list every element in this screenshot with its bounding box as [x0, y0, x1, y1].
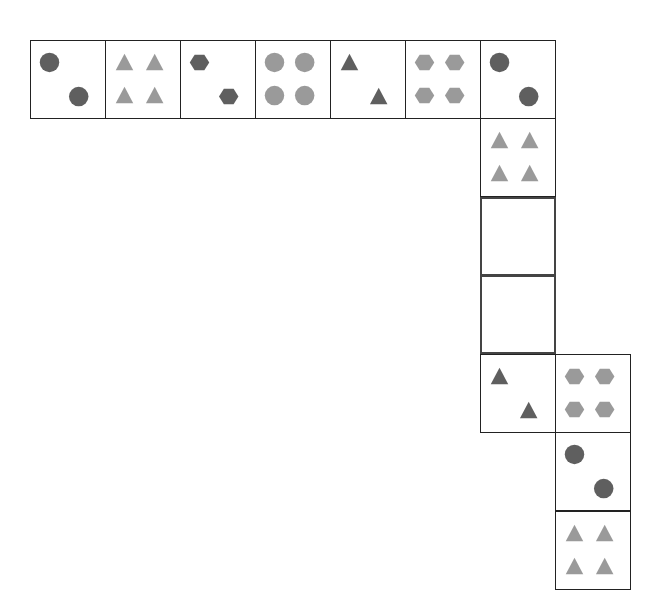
triangle-icon — [596, 558, 614, 575]
triangle-icon — [146, 54, 164, 71]
hexagon-icon — [219, 89, 238, 105]
triangle-icon — [596, 525, 614, 542]
triangle-icon — [520, 402, 538, 419]
domino-cell — [480, 40, 556, 119]
empty-slot[interactable] — [480, 197, 556, 276]
hexagon-icon — [445, 88, 464, 104]
hexagon-icon — [415, 55, 434, 71]
triangle-icon — [491, 165, 509, 182]
circle-icon — [594, 479, 613, 498]
domino-cell — [405, 40, 481, 119]
hexagon-icon — [190, 55, 209, 71]
domino-cell — [30, 40, 106, 119]
circle-icon — [295, 53, 314, 72]
domino-cell — [180, 40, 256, 119]
domino-cell — [480, 354, 556, 433]
triangle-icon — [116, 87, 134, 104]
empty-slot[interactable] — [480, 275, 556, 354]
domino-cell — [330, 40, 406, 119]
circle-icon — [295, 86, 314, 105]
domino-cell — [555, 432, 631, 511]
circle-icon — [565, 445, 584, 464]
domino-cell — [555, 511, 631, 590]
hexagon-icon — [445, 55, 464, 71]
triangle-icon — [521, 132, 539, 149]
domino-cell — [555, 354, 631, 433]
hexagon-icon — [595, 369, 614, 385]
circle-icon — [40, 53, 59, 72]
triangle-icon — [491, 368, 509, 385]
triangle-icon — [521, 165, 539, 182]
triangle-icon — [370, 88, 388, 105]
triangle-icon — [341, 54, 359, 71]
hexagon-icon — [565, 369, 584, 385]
circle-icon — [265, 53, 284, 72]
circle-icon — [265, 86, 284, 105]
domino-cell — [480, 118, 556, 197]
hexagon-icon — [565, 402, 584, 418]
circle-icon — [519, 87, 538, 106]
circle-icon — [69, 87, 88, 106]
domino-cell — [255, 40, 331, 119]
triangle-icon — [146, 87, 164, 104]
domino-cell — [105, 40, 181, 119]
circle-icon — [490, 53, 509, 72]
triangle-icon — [566, 558, 584, 575]
hexagon-icon — [415, 88, 434, 104]
triangle-icon — [491, 132, 509, 149]
triangle-icon — [566, 525, 584, 542]
triangle-icon — [116, 54, 134, 71]
hexagon-icon — [595, 402, 614, 418]
